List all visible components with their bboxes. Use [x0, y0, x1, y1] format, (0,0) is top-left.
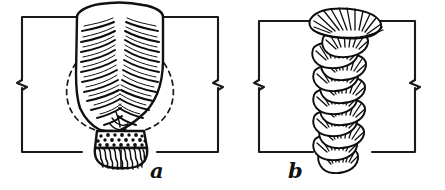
stipple-band-a: [95, 131, 147, 148]
figure-svg: a: [0, 0, 445, 190]
panel-a-label: a: [150, 158, 164, 183]
panel-a: a: [17, 3, 223, 183]
panel-b: b: [254, 8, 420, 183]
panel-a-plate-right: [157, 17, 223, 152]
weld-fusion-zone-a: [76, 3, 163, 132]
bead-layer-cap: [310, 8, 383, 39]
weld-cross-section-figure: a: [0, 0, 445, 190]
panel-a-plate-left: [17, 17, 82, 152]
panel-b-plate-right: [368, 21, 420, 152]
panel-b-plate-left: [254, 21, 318, 152]
panel-b-label: b: [288, 158, 303, 183]
